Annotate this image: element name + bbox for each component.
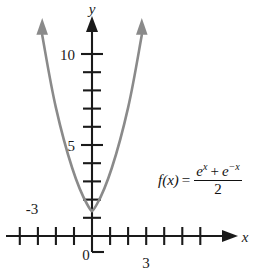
formula-equals-sign: = [182, 173, 190, 188]
function-formula-annotation: f(x) = ex+e−x 2 [158, 164, 242, 197]
y-axis [81, 16, 104, 252]
x-tick-label-3: 3 [142, 255, 150, 271]
graph-canvas: 10 5 -3 0 3 y x [0, 0, 255, 276]
formula-function-name: f(x) [158, 173, 179, 188]
x-axis-arrowhead-icon [222, 230, 238, 242]
x-tick-label-neg3: -3 [26, 201, 39, 217]
formula-denominator: 2 [212, 181, 224, 197]
y-tick-label-10: 10 [60, 47, 75, 63]
x-axis [6, 227, 238, 245]
formula-fraction: ex+e−x 2 [194, 164, 241, 197]
curve-left-arrowhead-icon [36, 18, 48, 35]
curve-right-arrowhead-icon [136, 18, 148, 35]
origin-label: 0 [82, 247, 90, 263]
y-axis-label: y [87, 1, 96, 17]
y-tick-label-5: 5 [68, 138, 76, 154]
formula-numerator: ex+e−x [194, 164, 241, 180]
y-axis-arrowhead-icon [86, 16, 98, 32]
x-axis-label: x [241, 229, 249, 245]
function-graph-figure: 10 5 -3 0 3 y x f(x) = ex+e−x 2 [0, 0, 255, 276]
